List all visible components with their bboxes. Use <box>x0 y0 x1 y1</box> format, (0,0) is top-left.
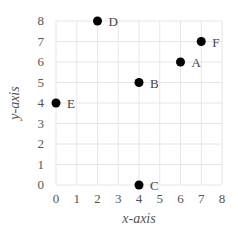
y-tick-label: 7 <box>38 34 45 49</box>
y-tick-label: 1 <box>38 157 45 172</box>
y-tick-label: 2 <box>38 136 45 151</box>
grid-lines <box>56 21 222 185</box>
point-label: B <box>150 76 159 91</box>
y-tick-label: 5 <box>38 75 45 90</box>
point-label: E <box>67 96 75 111</box>
y-tick-label: 3 <box>38 116 45 131</box>
x-tick-label: 5 <box>157 191 164 206</box>
point-marker-icon <box>135 181 144 190</box>
point-marker-icon <box>93 17 102 26</box>
x-tick-label: 3 <box>115 191 122 206</box>
point-label: D <box>109 14 118 29</box>
x-tick-label: 0 <box>53 191 60 206</box>
x-tick-label: 2 <box>94 191 101 206</box>
x-tick-label: 8 <box>219 191 226 206</box>
x-tick-label: 6 <box>177 191 184 206</box>
y-tick-label: 4 <box>38 95 45 110</box>
scatter-chart: 012345678 012345678 ABCDEF x-axis y-axis <box>0 0 238 231</box>
y-tick-label: 6 <box>38 54 45 69</box>
x-tick-label: 7 <box>198 191 205 206</box>
y-axis-label: y-axis <box>7 86 22 122</box>
point-label: F <box>212 35 219 50</box>
x-axis-label: x-axis <box>121 211 156 226</box>
point-label: C <box>150 178 159 193</box>
point-marker-icon <box>197 37 206 46</box>
point-marker-icon <box>176 58 185 67</box>
y-tick-label: 8 <box>38 13 45 28</box>
point-marker-icon <box>135 78 144 87</box>
x-tick-label: 1 <box>74 191 81 206</box>
y-tick-label: 0 <box>38 177 45 192</box>
point-label: A <box>192 55 202 70</box>
x-axis-ticks: 012345678 <box>53 191 226 206</box>
y-axis-ticks: 012345678 <box>38 13 45 192</box>
x-tick-label: 4 <box>136 191 143 206</box>
point-marker-icon <box>52 99 61 108</box>
